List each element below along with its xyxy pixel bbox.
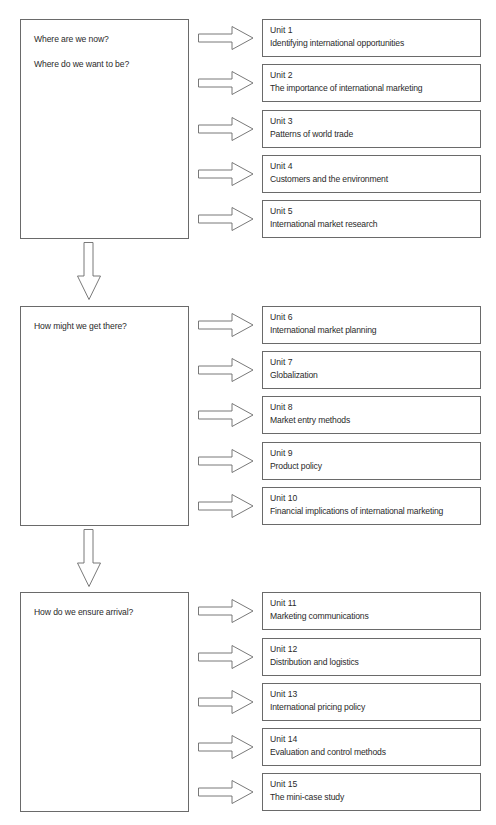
- unit-number: Unit 3: [270, 116, 292, 126]
- unit-title: Market entry methods: [270, 415, 350, 425]
- unit-number: Unit 2: [270, 70, 292, 80]
- unit-number: Unit 4: [270, 161, 292, 171]
- stage-box-2: How might we get there?: [20, 306, 189, 526]
- unit-number: Unit 7: [270, 357, 292, 367]
- unit-box-12: Unit 12 Distribution and logistics: [262, 638, 481, 676]
- unit-box-6: Unit 6 International market planning: [262, 306, 481, 344]
- right-arrow-icon: [198, 494, 254, 518]
- unit-box-5: Unit 5 International market research: [262, 200, 481, 238]
- unit-title: Product policy: [270, 461, 322, 471]
- right-arrow-icon: [198, 26, 254, 50]
- unit-box-11: Unit 11 Marketing communications: [262, 592, 481, 630]
- unit-box-4: Unit 4 Customers and the environment: [262, 155, 481, 193]
- stage-question: Where do we want to be?: [34, 59, 129, 69]
- unit-title: Customers and the environment: [270, 174, 388, 184]
- unit-title: Marketing communications: [270, 611, 369, 621]
- unit-title: Evaluation and control methods: [270, 747, 386, 757]
- unit-title: The importance of international marketin…: [270, 83, 422, 93]
- unit-box-7: Unit 7 Globalization: [262, 351, 481, 389]
- down-arrow-icon: [77, 242, 101, 300]
- down-arrow-icon: [77, 529, 101, 587]
- unit-number: Unit 14: [270, 734, 297, 744]
- unit-number: Unit 15: [270, 779, 297, 789]
- right-arrow-icon: [198, 162, 254, 186]
- unit-box-3: Unit 3 Patterns of world trade: [262, 110, 481, 148]
- unit-box-14: Unit 14 Evaluation and control methods: [262, 728, 481, 766]
- unit-number: Unit 9: [270, 448, 292, 458]
- unit-title: Globalization: [270, 370, 318, 380]
- unit-box-13: Unit 13 International pricing policy: [262, 683, 481, 721]
- right-arrow-icon: [198, 358, 254, 382]
- stage-box-3: How do we ensure arrival?: [20, 592, 189, 812]
- stage-question: How do we ensure arrival?: [34, 607, 133, 617]
- right-arrow-icon: [198, 313, 254, 337]
- unit-number: Unit 5: [270, 206, 292, 216]
- unit-title: International market research: [270, 219, 377, 229]
- unit-title: International market planning: [270, 325, 376, 335]
- stage-box-1: Where are we now? Where do we want to be…: [20, 19, 189, 239]
- unit-box-15: Unit 15 The mini-case study: [262, 773, 481, 811]
- right-arrow-icon: [198, 449, 254, 473]
- unit-title: Patterns of world trade: [270, 129, 353, 139]
- unit-box-2: Unit 2 The importance of international m…: [262, 64, 481, 102]
- unit-box-8: Unit 8 Market entry methods: [262, 396, 481, 434]
- unit-number: Unit 1: [270, 25, 292, 35]
- right-arrow-icon: [198, 117, 254, 141]
- unit-title: Financial implications of international …: [270, 506, 443, 516]
- unit-title: International pricing policy: [270, 702, 365, 712]
- unit-number: Unit 13: [270, 689, 297, 699]
- right-arrow-icon: [198, 645, 254, 669]
- unit-box-1: Unit 1 Identifying international opportu…: [262, 19, 481, 57]
- right-arrow-icon: [198, 403, 254, 427]
- right-arrow-icon: [198, 207, 254, 231]
- stage-question: Where are we now?: [34, 34, 109, 44]
- unit-title: The mini-case study: [270, 792, 344, 802]
- right-arrow-icon: [198, 599, 254, 623]
- unit-title: Distribution and logistics: [270, 657, 359, 667]
- right-arrow-icon: [198, 780, 254, 804]
- right-arrow-icon: [198, 735, 254, 759]
- unit-number: Unit 6: [270, 312, 292, 322]
- unit-number: Unit 8: [270, 402, 292, 412]
- unit-number: Unit 12: [270, 644, 297, 654]
- right-arrow-icon: [198, 690, 254, 714]
- stage-question: How might we get there?: [34, 321, 127, 331]
- unit-box-10: Unit 10 Financial implications of intern…: [262, 487, 481, 525]
- unit-number: Unit 11: [270, 598, 297, 608]
- unit-box-9: Unit 9 Product policy: [262, 442, 481, 480]
- unit-title: Identifying international opportunities: [270, 38, 404, 48]
- right-arrow-icon: [198, 71, 254, 95]
- unit-number: Unit 10: [270, 493, 297, 503]
